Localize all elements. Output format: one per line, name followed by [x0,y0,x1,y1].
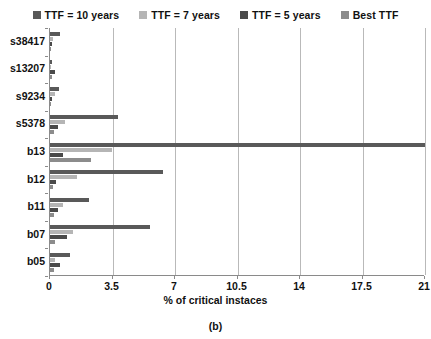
legend-swatch-icon [240,11,248,19]
bar [50,185,53,189]
chart-legend: TTF = 10 yearsTTF = 7 yearsTTF = 5 years… [0,6,431,24]
bar [50,268,54,272]
bar [50,65,51,69]
y-axis-tick [45,83,48,84]
legend-item-label: TTF = 10 years [45,10,120,21]
legend-item[interactable]: TTF = 7 years [139,10,220,21]
x-axis-tick [424,276,425,279]
bar [50,213,54,217]
bar [50,258,55,262]
bar [50,120,65,124]
figure-caption: (b) [0,320,431,332]
y-axis-category-label: b07 [0,229,45,240]
bar [50,158,91,162]
bar [50,87,59,91]
bar [50,198,89,202]
bar [50,240,55,244]
gridline [363,28,364,275]
y-axis-tick [45,248,48,249]
gridline [238,28,239,275]
y-axis-category-label: s5378 [0,118,45,129]
y-axis-tick [45,111,48,112]
bar [50,225,150,229]
x-axis-tick [112,276,113,279]
x-axis-tick [299,276,300,279]
plot-wrapper: s38417s13207s9234s5378b13b12b11b07b05 [0,28,431,276]
x-axis-tick-label: 7 [171,281,177,292]
bar [50,37,53,41]
bar [50,230,73,234]
legend-item[interactable]: Best TTF [341,10,399,21]
bar [50,75,52,79]
y-axis-category-labels: s38417s13207s9234s5378b13b12b11b07b05 [0,28,45,276]
y-axis-category-label: s38417 [0,36,45,47]
bar [50,70,55,74]
bar [50,153,63,157]
bar [50,60,52,64]
y-axis-tick [45,138,48,139]
y-axis-category-label: s9234 [0,91,45,102]
bar [50,115,118,119]
gridline [425,28,426,275]
y-axis-category-label: b11 [0,201,45,212]
bar [50,208,58,212]
x-axis-tick [237,276,238,279]
bar [50,32,60,36]
legend-item-label: TTF = 7 years [151,10,220,21]
y-axis-tick [45,166,48,167]
legend-item[interactable]: TTF = 10 years [33,10,120,21]
bar [50,203,63,207]
legend-swatch-icon [33,11,41,19]
bar [50,42,52,46]
legend-item-label: Best TTF [353,10,399,21]
y-axis-category-label: b05 [0,256,45,267]
bar [50,253,70,257]
bar [50,97,52,101]
bar [50,170,163,174]
x-axis-tick-label: 3.5 [104,281,119,292]
y-axis-tick [45,221,48,222]
y-axis-tick [45,56,48,57]
bar [50,263,60,267]
bar [50,180,56,184]
bar [50,125,58,129]
legend-item[interactable]: TTF = 5 years [240,10,321,21]
bar [50,143,425,147]
y-axis-tick [45,28,48,29]
bar [50,47,51,51]
y-axis-category-label: s13207 [0,63,45,74]
legend-swatch-icon [341,11,349,19]
x-axis-tick-label: 21 [418,281,430,292]
gridline [113,28,114,275]
y-axis-category-label: b13 [0,146,45,157]
legend-item-label: TTF = 5 years [252,10,321,21]
x-axis-tick [362,276,363,279]
y-axis-category-label: b12 [0,174,45,185]
x-axis-tick-label: 14 [293,281,305,292]
x-axis-tick-label: 10.5 [226,281,246,292]
bar [50,235,67,239]
x-axis-title: % of critical instaces [0,294,431,306]
bar [50,130,54,134]
x-axis-tick-label: 0 [46,281,52,292]
gridline [300,28,301,275]
bar [50,175,77,179]
x-axis-tick [49,276,50,279]
x-axis-tick [174,276,175,279]
bar [50,148,112,152]
legend-swatch-icon [139,11,147,19]
bar [50,102,51,106]
plot-area [49,28,424,276]
x-axis-tick-label: 17.5 [351,281,371,292]
bar [50,92,55,96]
gridline [175,28,176,275]
y-axis-tick [45,193,48,194]
figure-b: TTF = 10 yearsTTF = 7 yearsTTF = 5 years… [0,0,431,339]
